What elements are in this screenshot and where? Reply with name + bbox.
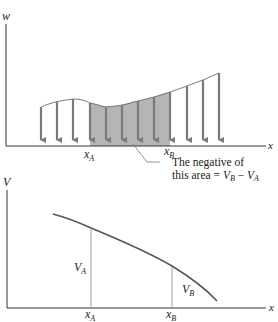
xB-label-bottom: xB	[165, 307, 176, 322]
load-shear-diagram: w x xA xB The negative of this area = VB…	[0, 0, 278, 322]
bottom-x-axis-label: x	[268, 301, 274, 313]
V-axis-label: V	[3, 175, 12, 189]
xA-label-bottom: xA	[84, 307, 95, 322]
annotation-leader-line	[133, 144, 160, 162]
shear-curve	[53, 214, 217, 301]
VB-label: VB	[182, 282, 194, 298]
top-x-axis-label: x	[267, 139, 273, 151]
VA-label: VA	[74, 260, 86, 276]
xA-label-top: xA	[83, 147, 94, 163]
shear-diagram-panel: V x VA VB xA xB	[3, 175, 274, 322]
annotation-line-1: The negative of	[172, 156, 244, 169]
load-curve	[41, 73, 219, 107]
load-diagram-panel: w x xA xB The negative of this area = VB…	[2, 9, 273, 183]
w-axis-label: w	[2, 9, 10, 23]
annotation-line-2: this area = VB − VA	[172, 169, 259, 183]
shaded-area	[90, 92, 170, 146]
